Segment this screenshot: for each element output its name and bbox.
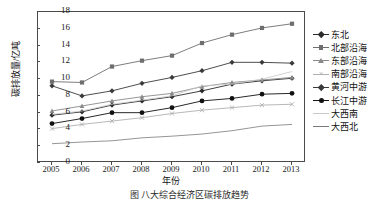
data-point bbox=[140, 59, 144, 63]
data-point bbox=[259, 60, 264, 65]
legend-key bbox=[313, 121, 329, 132]
legend-item-6[interactable]: 大西南 bbox=[313, 107, 379, 120]
data-point bbox=[260, 92, 265, 97]
data-point bbox=[199, 88, 204, 93]
legend-line-swatch bbox=[313, 113, 329, 114]
data-point bbox=[109, 103, 114, 108]
x-axis-title: 年份 bbox=[37, 176, 305, 186]
data-point bbox=[110, 64, 114, 68]
x-tick-label: 2013 bbox=[274, 165, 308, 174]
data-point bbox=[170, 105, 175, 110]
x-tick-label: 2005 bbox=[34, 165, 68, 174]
legend-item-0[interactable]: 东北 bbox=[313, 28, 379, 41]
x-tick-mark bbox=[111, 162, 112, 165]
data-point bbox=[170, 54, 174, 58]
series-7 bbox=[52, 124, 292, 143]
y-tick-label: 10 bbox=[44, 73, 70, 82]
legend: 东北北部沿海东部沿海×南部沿海黄河中游长江中游大西南大西北 bbox=[313, 28, 379, 134]
y-tick-label: 18 bbox=[44, 6, 70, 15]
data-point bbox=[109, 88, 114, 93]
y-tick-mark bbox=[37, 95, 40, 96]
y-tick-label: 8 bbox=[44, 90, 70, 99]
x-tick-mark bbox=[201, 162, 202, 165]
series-line bbox=[52, 124, 292, 143]
legend-key bbox=[313, 108, 329, 119]
legend-item-5[interactable]: 长江中游 bbox=[313, 94, 379, 107]
legend-key bbox=[313, 29, 329, 40]
data-point bbox=[139, 98, 144, 103]
data-point bbox=[80, 116, 85, 121]
data-point bbox=[290, 91, 295, 96]
y-tick-mark bbox=[37, 28, 40, 29]
y-tick-mark bbox=[37, 162, 40, 163]
x-tick-label: 2007 bbox=[94, 165, 128, 174]
data-point bbox=[200, 99, 205, 104]
y-tick-mark bbox=[37, 145, 40, 146]
x-tick-label: 2011 bbox=[214, 165, 248, 174]
legend-key bbox=[313, 42, 329, 53]
x-tick-mark bbox=[81, 162, 82, 165]
x-tick-label: 2009 bbox=[154, 165, 188, 174]
data-point bbox=[200, 41, 204, 45]
y-tick-mark bbox=[37, 112, 40, 113]
plot-area bbox=[37, 11, 305, 162]
data-point bbox=[169, 75, 174, 80]
data-point bbox=[229, 60, 234, 65]
y-tick-label: 6 bbox=[44, 107, 70, 116]
legend-item-3[interactable]: ×南部沿海 bbox=[313, 68, 379, 81]
x-tick-mark bbox=[141, 162, 142, 165]
data-point bbox=[140, 110, 145, 115]
data-point bbox=[230, 96, 235, 101]
legend-item-1[interactable]: 北部沿海 bbox=[313, 41, 379, 54]
data-point bbox=[79, 93, 84, 98]
legend-label: 大西北 bbox=[329, 122, 358, 132]
x-tick-label: 2012 bbox=[244, 165, 278, 174]
y-tick-mark bbox=[37, 45, 40, 46]
y-tick-label: 16 bbox=[44, 23, 70, 32]
legend-marker-diamond-icon bbox=[318, 84, 324, 90]
data-point bbox=[199, 68, 204, 73]
x-tick-label: 2006 bbox=[64, 165, 98, 174]
legend-marker-square-icon bbox=[319, 45, 324, 50]
data-point bbox=[289, 61, 294, 66]
y-tick-mark bbox=[37, 11, 40, 12]
series-line bbox=[52, 24, 292, 83]
data-point bbox=[290, 22, 294, 26]
legend-marker-triangle-icon bbox=[318, 58, 324, 63]
legend-label: 东部沿海 bbox=[329, 56, 367, 66]
x-tick-mark bbox=[261, 162, 262, 165]
y-tick-label: 14 bbox=[44, 40, 70, 49]
y-tick-mark bbox=[37, 61, 40, 62]
y-axis-title: 碳排放量/亿吨 bbox=[11, 23, 21, 115]
data-point bbox=[49, 83, 54, 88]
x-tick-mark bbox=[51, 162, 52, 165]
legend-line-swatch bbox=[313, 126, 329, 127]
data-point bbox=[79, 109, 84, 114]
legend-label: 大西南 bbox=[329, 109, 358, 119]
figure-caption: 图 八大综合经济区碳排放趋势 bbox=[0, 190, 379, 202]
legend-marker-diamond-icon bbox=[318, 31, 324, 37]
legend-item-2[interactable]: 东部沿海 bbox=[313, 54, 379, 67]
legend-key: × bbox=[313, 69, 329, 80]
data-point bbox=[110, 110, 115, 115]
x-tick-mark bbox=[231, 162, 232, 165]
legend-label: 黄河中游 bbox=[329, 82, 367, 92]
legend-item-4[interactable]: 黄河中游 bbox=[313, 81, 379, 94]
y-tick-label: 4 bbox=[44, 123, 70, 132]
x-tick-label: 2010 bbox=[184, 165, 218, 174]
x-tick-mark bbox=[291, 162, 292, 165]
chart-canvas bbox=[38, 12, 306, 163]
legend-key bbox=[313, 55, 329, 66]
y-tick-mark bbox=[37, 78, 40, 79]
y-tick-label: 2 bbox=[44, 140, 70, 149]
legend-label: 南部沿海 bbox=[329, 69, 367, 79]
legend-label: 东北 bbox=[329, 30, 349, 40]
legend-marker-circle-icon bbox=[319, 98, 324, 103]
figure-container: 碳排放量/亿吨 024681012141618 2005200620072008… bbox=[0, 0, 379, 202]
legend-item-7[interactable]: 大西北 bbox=[313, 120, 379, 133]
data-point bbox=[80, 80, 84, 84]
legend-key bbox=[313, 82, 329, 93]
data-point bbox=[230, 33, 234, 37]
y-tick-mark bbox=[37, 128, 40, 129]
legend-marker-cross-icon: × bbox=[318, 71, 325, 77]
